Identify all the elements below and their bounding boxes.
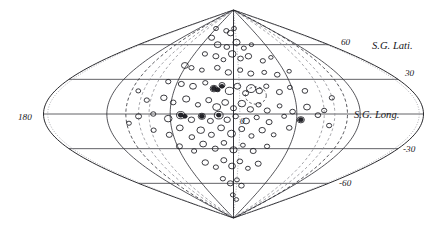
galaxy-marker <box>213 54 219 59</box>
galaxy-marker <box>286 125 292 130</box>
latitude-tick-60: 60 <box>341 37 351 47</box>
galaxy-marker <box>241 46 246 50</box>
galaxy-marker <box>227 130 235 137</box>
galaxy-marker <box>264 108 270 113</box>
galaxy-marker <box>246 166 251 170</box>
latitude-tick-minus-60: -60 <box>339 178 352 188</box>
galaxy-marker <box>264 144 269 148</box>
galaxy-marker <box>277 104 282 108</box>
galaxy-marker <box>264 84 269 88</box>
galaxy-marker <box>271 133 276 137</box>
galaxy-marker <box>178 81 184 86</box>
galaxy-marker <box>218 125 225 131</box>
galaxy-marker <box>266 120 272 125</box>
galaxy-marker <box>241 143 246 147</box>
galaxy-marker-filled <box>183 114 187 118</box>
galaxy-marker <box>304 104 311 110</box>
galaxy-marker <box>228 51 236 58</box>
galaxy-marker <box>221 58 226 62</box>
galaxy-marker <box>127 121 132 125</box>
galaxy-marker <box>213 104 221 111</box>
galaxy-marker <box>164 115 172 122</box>
galaxy-marker <box>269 55 273 59</box>
galaxy-marker <box>144 98 149 102</box>
longitude-tick-180: 180 <box>18 112 32 122</box>
supergalactic-sky-map-svg: S.G. Lati. S.G. Long. 180 0 60 30 -30 -6… <box>0 0 445 228</box>
galaxy-marker <box>262 70 267 74</box>
galaxy-marker <box>224 117 230 123</box>
galaxy-marker <box>202 52 207 56</box>
galaxy-marker <box>220 176 225 180</box>
galaxy-marker <box>189 66 194 70</box>
galaxy-marker <box>256 103 261 107</box>
galaxy-marker <box>166 132 172 137</box>
longitude-tick-0: 0 <box>240 116 245 126</box>
sg-latitude-axis-label: S.G. Lati. <box>372 40 413 51</box>
galaxy-marker <box>315 113 321 118</box>
galaxy-marker <box>229 163 236 169</box>
galaxy-marker <box>274 72 280 77</box>
galaxy-marker <box>234 83 241 89</box>
galaxy-marker <box>227 30 233 36</box>
galaxy-marker-filled <box>217 113 221 117</box>
galaxy-marker <box>238 56 244 61</box>
galaxy-marker <box>188 117 194 123</box>
galaxy-marker <box>247 85 256 93</box>
galaxy-marker <box>203 81 208 85</box>
galaxy-marker <box>256 88 262 94</box>
galaxy-marker <box>200 141 207 147</box>
galaxy-marker <box>195 103 200 107</box>
galaxy-marker <box>192 149 197 153</box>
galaxy-marker <box>329 96 334 100</box>
galaxy-marker-filled <box>215 88 220 92</box>
galaxy-marker <box>151 128 156 132</box>
latitude-tick-30: 30 <box>404 68 415 78</box>
galaxy-marker <box>225 70 231 76</box>
galaxy-marker <box>206 98 212 103</box>
galaxy-marker <box>213 165 218 169</box>
galaxy-marker <box>209 35 215 40</box>
galaxy-marker <box>302 88 308 93</box>
galaxy-marker-filled <box>298 118 303 122</box>
galaxy-marker <box>282 114 287 118</box>
galaxy-marker <box>166 79 171 83</box>
galaxy-marker <box>224 45 230 50</box>
galaxy-marker <box>199 68 204 72</box>
galaxy-marker <box>230 193 235 197</box>
galaxy-marker <box>232 26 237 30</box>
galaxy-marker <box>207 118 213 123</box>
galaxy-marker <box>183 96 190 102</box>
galaxy-marker <box>259 127 265 133</box>
galaxy-marker <box>222 100 229 106</box>
galaxy-marker <box>225 87 233 94</box>
galaxy-marker <box>248 71 254 76</box>
galaxy-marker <box>176 125 183 131</box>
galaxy-marker-filled <box>199 114 204 118</box>
galaxy-marker <box>245 53 251 59</box>
galaxy-marker <box>221 158 227 163</box>
galaxy-marker <box>260 59 265 63</box>
sky-map-figure: S.G. Lati. S.G. Long. 180 0 60 30 -30 -6… <box>0 0 445 228</box>
latitude-tick-minus-30: -30 <box>403 144 416 154</box>
galaxy-marker <box>221 140 227 145</box>
galaxy-marker <box>202 160 208 166</box>
galaxy-marker <box>208 132 214 137</box>
galaxy-marker <box>249 134 254 138</box>
galaxy-marker <box>239 126 245 131</box>
sg-longitude-axis-label: S.G. Long. <box>354 109 399 120</box>
galaxy-marker-filled <box>220 84 224 88</box>
galaxy-marker <box>136 89 141 93</box>
galaxy-marker <box>276 89 282 94</box>
galaxy-marker <box>327 123 332 127</box>
galaxy-marker <box>254 115 259 119</box>
galaxy-marker <box>287 69 291 73</box>
galaxy-marker <box>237 159 243 164</box>
galaxy-marker <box>161 95 167 101</box>
galaxy-marker <box>197 127 205 134</box>
galaxy-marker <box>250 148 256 153</box>
galaxy-marker <box>189 135 195 140</box>
galaxy-marker <box>239 183 245 188</box>
galaxy-marker <box>190 83 197 89</box>
galaxy-marker <box>247 107 253 113</box>
galaxy-marker <box>238 100 246 107</box>
